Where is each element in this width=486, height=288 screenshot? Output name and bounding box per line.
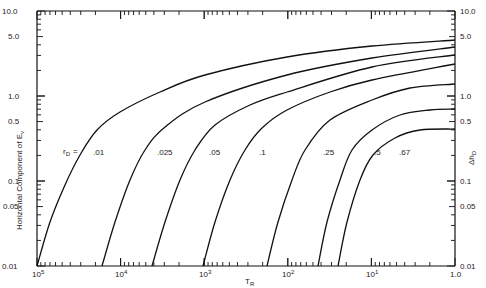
axis-ticks [37,11,455,266]
y-tick-10: 10.0 [2,7,18,16]
y-right-tick-0-5: 0.5 [460,117,472,126]
y-right-tick-0-1: 0.1 [460,177,472,186]
curve-rd-1 [203,64,455,266]
curve-rd-05 [152,55,455,266]
curve-label-1: .1 [259,148,266,157]
axes-frame [37,11,455,266]
curve-label-5: .5 [374,148,381,157]
y-tick-0-5: 0.5 [8,117,20,126]
x-tick-1e5: 105 [32,269,45,279]
y-right-tick-5: 5.0 [460,32,472,41]
curve-label-01: .01 [93,148,105,157]
plot-area: 10.0 5.0 1.0 0.5 0.1 0.05 0.01 10.0 5.0 … [0,0,486,288]
curve-rd-67 [338,129,455,266]
curve-rd-5 [318,109,455,266]
x-tick-1e3: 103 [199,269,212,279]
y-tick-5: 5.0 [8,32,20,41]
y-right-axis-title: ΔhD [467,150,477,165]
y-tick-0-01: 0.01 [2,262,18,271]
y-right-tick-0-05: 0.05 [460,202,476,211]
curve-label-25: .25 [323,148,335,157]
y-right-tick-10: 10.0 [460,7,476,16]
y-right-tick-1: 1.0 [460,92,472,101]
curve-rd-25 [267,84,455,266]
y-right-tick-0-01: 0.01 [460,262,476,271]
chart: 10.0 5.0 1.0 0.5 0.1 0.05 0.01 10.0 5.0 … [0,0,486,288]
x-axis-title: TR [245,277,255,287]
x-tick-1e4: 104 [115,269,128,279]
axis-labels: 10.0 5.0 1.0 0.5 0.1 0.05 0.01 10.0 5.0 … [2,7,477,287]
y-tick-1: 1.0 [8,92,20,101]
x-tick-1e1: 101 [366,269,379,279]
curve-label-05: .05 [209,148,221,157]
curve-label-025: .025 [157,148,173,157]
curve-label-67: .67 [399,148,411,157]
param-label: rD= [63,147,78,157]
y-axis-title: Horizontal Component of Ev [15,131,25,230]
x-tick-1e2: 102 [282,269,295,279]
x-tick-1: 1.0 [450,270,462,279]
